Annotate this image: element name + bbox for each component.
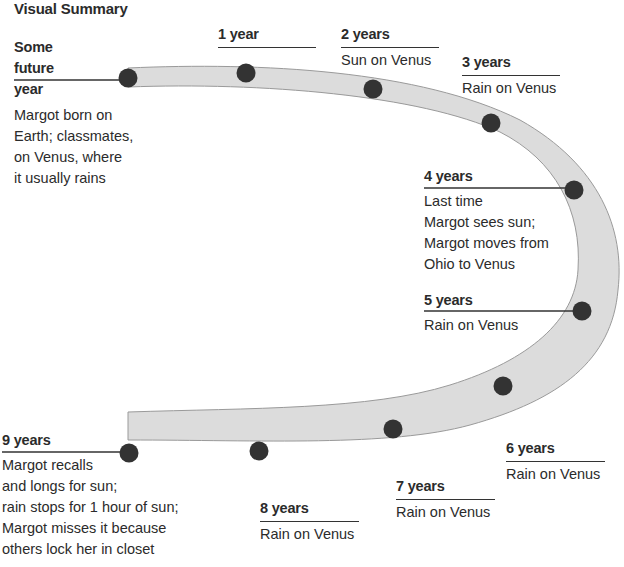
- event-desc: Margot recalls and longs for sun; rain s…: [2, 453, 192, 560]
- event-desc: Rain on Venus: [506, 462, 605, 485]
- event-desc: Rain on Venus: [396, 500, 495, 523]
- event-time: 4 years: [424, 166, 574, 189]
- event-desc: Last time Margot sees sun; Margot moves …: [424, 189, 574, 275]
- event-time: 9 years: [2, 430, 192, 453]
- event-time: 1 year: [218, 24, 316, 48]
- dot-7-years: [384, 420, 403, 439]
- event-future-year: Some future year Margot born on Earth; c…: [14, 37, 133, 189]
- dot-6-years: [494, 377, 513, 396]
- event-8-years: 8 years Rain on Venus: [260, 498, 359, 545]
- event-5-years: 5 years Rain on Venus: [424, 290, 574, 336]
- dot-3-years: [482, 114, 501, 133]
- event-9-years: 9 years Margot recalls and longs for sun…: [2, 430, 192, 560]
- event-desc: Margot born on Earth; classmates, on Ven…: [14, 103, 133, 189]
- dot-5-years: [573, 302, 592, 321]
- event-3-years: 3 years Rain on Venus: [462, 52, 560, 99]
- event-desc: Sun on Venus: [341, 48, 439, 71]
- event-time: 5 years: [424, 290, 574, 313]
- event-time-line1: Some: [14, 37, 133, 58]
- event-4-years: 4 years Last time Margot sees sun; Margo…: [424, 166, 574, 275]
- event-7-years: 7 years Rain on Venus: [396, 476, 495, 523]
- event-time: 2 years: [341, 24, 439, 48]
- event-2-years: 2 years Sun on Venus: [341, 24, 439, 71]
- event-time: 8 years: [260, 498, 359, 522]
- event-desc: Rain on Venus: [260, 522, 359, 545]
- event-1-year: 1 year: [218, 24, 316, 48]
- event-time: 3 years: [462, 52, 560, 76]
- event-desc: Rain on Venus: [462, 76, 560, 99]
- dot-1-year: [237, 64, 256, 83]
- event-desc: Rain on Venus: [424, 313, 574, 336]
- event-time: 6 years: [506, 438, 605, 462]
- event-6-years: 6 years Rain on Venus: [506, 438, 605, 485]
- dot-8-years: [250, 442, 269, 461]
- dot-2-years: [364, 80, 383, 99]
- event-time: 7 years: [396, 476, 495, 500]
